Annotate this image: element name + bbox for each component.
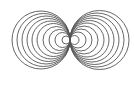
right-circle-family	[70, 11, 129, 70]
right-circle	[70, 23, 104, 57]
left-circle	[37, 24, 70, 57]
left-circle	[27, 19, 70, 62]
right-circle	[70, 13, 124, 67]
left-circle	[32, 21, 70, 59]
left-circle	[55, 33, 70, 48]
left-circle	[22, 16, 70, 64]
right-circle	[70, 21, 109, 60]
right-circle	[70, 36, 79, 45]
left-circle	[62, 36, 70, 44]
right-circle	[70, 32, 86, 48]
left-circle-family	[12, 11, 70, 69]
left-circle	[43, 27, 70, 54]
right-circle	[70, 16, 119, 65]
right-circle	[70, 26, 98, 54]
nested-circles-diagram	[0, 0, 134, 86]
